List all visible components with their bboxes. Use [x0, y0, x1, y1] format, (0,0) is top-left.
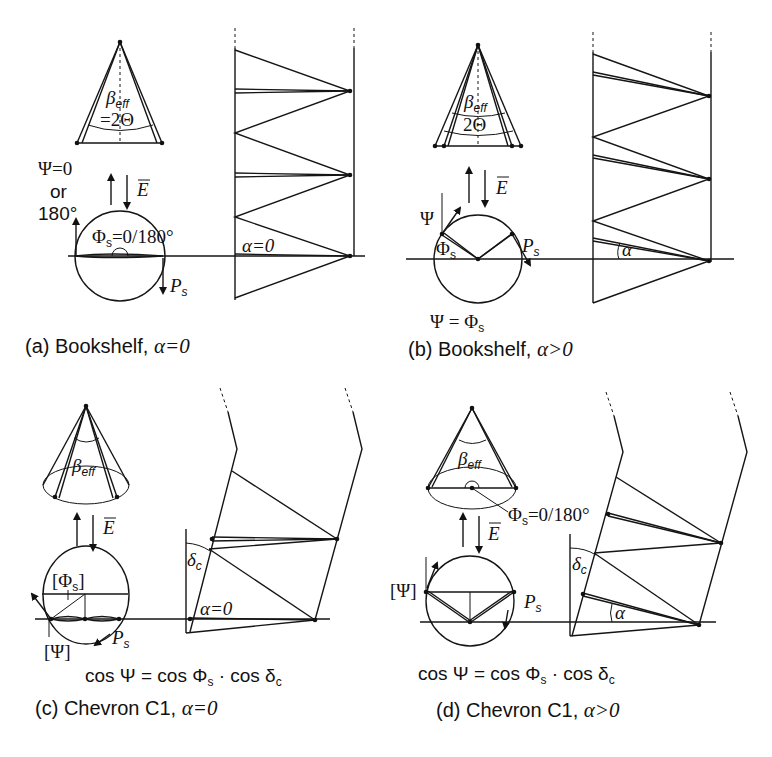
chevron-layers-c: δc α=0	[186, 388, 362, 633]
smectic-layers-b: α	[593, 32, 711, 303]
e-field-label: E	[136, 179, 149, 200]
panel-d: βeff Φs=0/180° E [Ψ] Ps	[390, 392, 747, 722]
ps-arrow-icon	[95, 634, 110, 645]
liquid-crystal-geometry-diagram: βeff =2Θ Ψ=0 or 180° E Φs=0/180° Ps	[0, 0, 772, 757]
psi-zero-label: Ψ=0	[38, 158, 72, 179]
panel-a: βeff =2Θ Ψ=0 or 180° E Φs=0/180° Ps	[25, 28, 365, 358]
caption-c: (c) Chevron C1, α=0	[35, 696, 218, 720]
ps-label: Ps	[169, 275, 188, 299]
alpha-zero-label: α=0	[200, 598, 233, 619]
psi-label: Ψ	[420, 208, 434, 229]
caption-a: (a) Bookshelf, α=0	[25, 334, 190, 358]
smectic-layers-a: α=0	[235, 28, 354, 300]
beta-eff-label: βeff	[71, 455, 96, 479]
dipole-arrow-icon	[427, 563, 437, 588]
beta-eff-label: βeff	[463, 91, 488, 115]
caption-b: (b) Bookshelf, α>0	[408, 337, 573, 361]
cone-b: βeff 2Θ	[433, 43, 524, 149]
alpha-label: α	[622, 239, 633, 260]
panel-b: βeff 2Θ E Ψ Φs Ps Ψ = Φs	[406, 32, 734, 361]
beta-eff-label: βeff	[457, 448, 482, 472]
equation-c: cos Ψ = cos Φs · cos δc	[85, 665, 282, 689]
or-label: or	[50, 181, 68, 202]
phi-s-bracket-label: [Φs]	[52, 570, 85, 594]
phi-s-label: Φs=0/180°	[508, 504, 589, 528]
beta-eff-label: βeff	[105, 87, 130, 111]
delta-c-label: δc	[572, 553, 587, 577]
dipole-arrow-icon	[442, 208, 460, 234]
two-theta-label: =2Θ	[100, 109, 134, 130]
psi-bracket-label: [Ψ]	[390, 580, 417, 601]
chevron-layers-d: δc α	[570, 392, 747, 636]
ps-label: Ps	[111, 627, 130, 651]
cone-c: βeff	[43, 404, 129, 504]
psi-bracket-label: [Ψ]	[44, 641, 71, 662]
ps-label: Ps	[523, 591, 542, 615]
phi-s-label: Φs=0/180°	[92, 226, 173, 250]
cone-a: βeff =2Θ	[75, 40, 165, 146]
caption-d: (d) Chevron C1, α>0	[436, 698, 620, 722]
psi-180-label: 180°	[38, 203, 77, 224]
psi-equals-phi-label: Ψ = Φs	[430, 311, 484, 335]
e-field-label: E	[487, 523, 500, 544]
equation-d: cos Ψ = cos Φs · cos δc	[418, 663, 615, 687]
ps-label: Ps	[521, 235, 540, 259]
cone-d: βeff	[426, 406, 519, 512]
two-theta-label: 2Θ	[463, 114, 486, 135]
e-field-label: E	[495, 177, 508, 198]
panel-c: βeff E [Φs] [Ψ] Ps	[32, 388, 362, 720]
alpha-label: α	[615, 602, 626, 623]
delta-c-label: δc	[187, 549, 202, 573]
alpha-zero-label: α=0	[242, 235, 275, 256]
dipole-arrow-icon	[32, 594, 51, 619]
e-field-label: E	[102, 517, 115, 538]
